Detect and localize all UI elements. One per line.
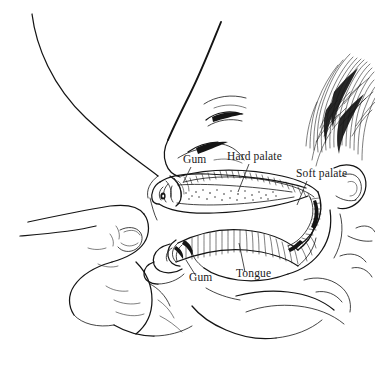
leader-soft-palate [297, 181, 307, 205]
label-tongue: Tongue [236, 267, 271, 280]
hand-and-lower-breast [114, 262, 192, 336]
upper-gum [166, 176, 189, 206]
breast-outline [20, 14, 158, 236]
label-gum-upper: Gum [183, 153, 206, 165]
label-gum-lower: Gum [189, 271, 212, 283]
infant-cheek-jaw-neck [192, 210, 375, 339]
breastfeeding-latch-figure: Gum Hard palate Soft palate Gum Tongue [0, 0, 375, 367]
areola-stipple [185, 189, 276, 200]
lower-gum [144, 240, 193, 284]
infant-eye [204, 96, 246, 126]
supporting-finger [28, 205, 149, 326]
leader-lines [183, 164, 307, 276]
label-hard-palate: Hard palate [227, 150, 282, 163]
anatomy-line-drawing: Gum Hard palate Soft palate Gum Tongue [0, 0, 375, 367]
hard-palate-hatching [190, 171, 311, 200]
label-soft-palate: Soft palate [296, 167, 347, 180]
tongue [172, 228, 316, 266]
diagram-labels: Gum Hard palate Soft palate Gum Tongue [183, 150, 347, 283]
infant-hair [306, 54, 375, 166]
